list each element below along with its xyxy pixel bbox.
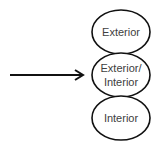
- label-exterior-interior-line1: Exterior/: [101, 62, 143, 74]
- ellipse-exterior-interior: [92, 53, 150, 97]
- label-exterior: Exterior: [102, 26, 140, 38]
- node-exterior: Exterior: [92, 10, 150, 54]
- node-exterior-interior: Exterior/ Interior: [92, 53, 150, 97]
- node-interior: Interior: [92, 96, 150, 140]
- label-exterior-interior-line2: Interior: [104, 76, 139, 88]
- arrow: [10, 70, 83, 80]
- label-interior: Interior: [104, 112, 139, 124]
- diagram-canvas: Exterior Exterior/ Interior Interior: [0, 0, 160, 148]
